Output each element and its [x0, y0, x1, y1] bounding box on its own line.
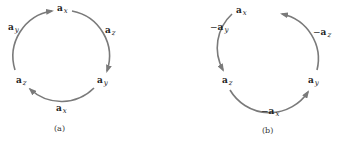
caption-b: (b): [262, 126, 273, 135]
node-b-y: ay: [308, 76, 319, 85]
arc-label-neg-a-z: −az: [313, 28, 331, 37]
arc-az-to-ax: [13, 11, 52, 70]
arc-label-a-x: ax: [56, 104, 67, 113]
arcs-layer: [0, 0, 339, 146]
arc-label-neg-a-x: −ax: [261, 107, 279, 116]
panel-b-arcs: [217, 14, 318, 113]
node-a-z: az: [16, 76, 27, 85]
arc-ay-to-ax: [282, 14, 318, 70]
cross-product-cycle-diagram: ax ay az az ax ay (a) ax ay az −ay: [0, 0, 339, 146]
arc-ay-to-az: [30, 88, 94, 101]
caption-a: (a): [54, 124, 65, 133]
arc-label-neg-a-y: −ay: [210, 23, 228, 32]
node-b-z: az: [222, 76, 233, 85]
node-b-x: ax: [236, 6, 247, 15]
arc-label-a-z: az: [105, 26, 116, 35]
panel-a-arcs: [13, 11, 109, 101]
arc-label-a-y: ay: [8, 23, 19, 32]
node-a-x: ax: [57, 4, 68, 13]
node-a-y: ay: [97, 76, 108, 85]
arc-ax-to-ay: [72, 11, 109, 71]
